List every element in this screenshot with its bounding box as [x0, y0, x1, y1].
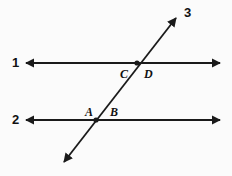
geometry-diagram: 1 2 3 C D A B: [0, 0, 232, 176]
point-label-d: D: [144, 68, 153, 80]
point-label-a: A: [85, 106, 93, 118]
line-label-1: 1: [12, 56, 19, 69]
point-label-b: B: [110, 106, 118, 118]
diagram-svg: [0, 0, 232, 176]
line-label-3: 3: [184, 6, 191, 19]
line-label-2: 2: [12, 113, 19, 126]
line-3-stroke: [64, 18, 176, 162]
intersection-point-lower: [93, 117, 98, 122]
intersection-point-upper: [134, 60, 139, 65]
point-label-c: C: [120, 68, 128, 80]
